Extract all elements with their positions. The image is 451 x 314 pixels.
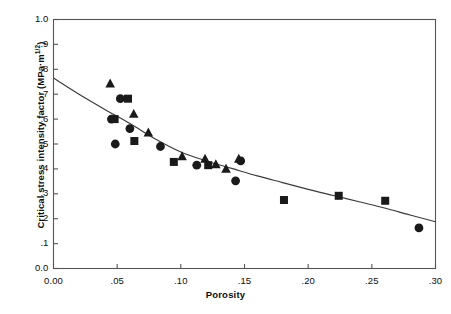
fitted-trend-curve	[54, 78, 436, 222]
data-point-square-6	[335, 192, 343, 200]
x-tick-label-3: .15	[221, 275, 269, 286]
chart-figure: Critical stress intensity factor (MPa·m1…	[0, 0, 451, 314]
y-tick-label-10: 1.0	[5, 13, 49, 24]
data-point-square-2	[130, 137, 138, 145]
data-point-circle-8	[415, 224, 424, 233]
data-point-triangle-3	[177, 151, 187, 160]
y-tick-label-1: .1	[5, 237, 49, 248]
data-point-square-3	[170, 158, 178, 166]
y-tick-label-4: .4	[5, 162, 49, 173]
data-point-square-1	[124, 95, 132, 103]
data-point-square-5	[280, 196, 288, 204]
data-point-triangle-1	[129, 109, 139, 118]
data-point-triangle-5	[211, 159, 221, 168]
data-point-circle-6	[231, 176, 240, 185]
data-point-circle-2	[111, 140, 120, 149]
y-tick-label-7: .7	[5, 88, 49, 99]
x-tick-label-2: .10	[157, 275, 205, 286]
y-tick-label-3: .3	[5, 187, 49, 198]
x-tick-label-5: .25	[348, 275, 396, 286]
data-point-triangle-2	[144, 128, 154, 137]
y-tick-label-8: .8	[5, 63, 49, 74]
data-point-triangle-4	[200, 154, 210, 163]
plot-area-svg	[0, 0, 451, 314]
data-point-square-7	[381, 197, 389, 205]
x-tick-label-6: .30	[412, 275, 451, 286]
data-point-triangle-0	[105, 79, 115, 88]
y-tick-label-0: 0.0	[5, 262, 49, 273]
data-point-circle-1	[116, 94, 125, 103]
series-circle	[107, 94, 423, 232]
data-point-circle-3	[125, 124, 134, 133]
x-axis-title: Porosity	[0, 289, 451, 300]
y-tick-label-6: .6	[5, 113, 49, 124]
data-point-circle-5	[192, 161, 201, 170]
x-tick-label-1: .05	[93, 275, 141, 286]
data-point-circle-4	[156, 142, 165, 151]
y-tick-label-2: .2	[5, 212, 49, 223]
plot-frame	[54, 20, 436, 269]
x-tick-label-4: .20	[284, 275, 332, 286]
y-tick-label-9: .9	[5, 38, 49, 49]
data-point-square-0	[111, 115, 119, 123]
x-tick-label-0: 0.00	[30, 275, 78, 286]
y-tick-label-5: .5	[5, 138, 49, 149]
series-square	[111, 95, 390, 205]
